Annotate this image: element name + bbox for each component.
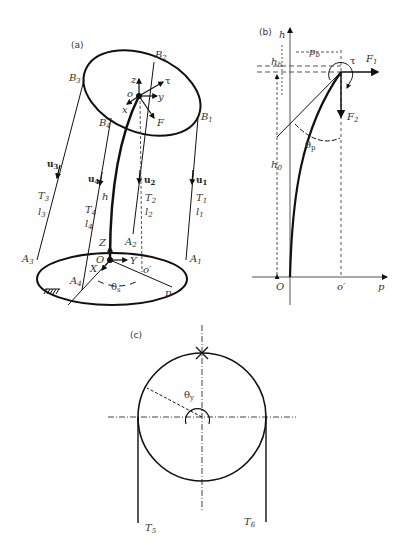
- o-label: o: [127, 88, 133, 99]
- l1-label: l1: [196, 206, 204, 219]
- h0-label: h0: [271, 159, 282, 172]
- A2-label: A2: [124, 236, 137, 249]
- u4-label: u4: [88, 174, 100, 186]
- O-axis-origin-label: O: [276, 281, 284, 292]
- tangent-line: [277, 72, 341, 137]
- p-line: [110, 260, 172, 287]
- h-label: h: [102, 191, 108, 202]
- theta-y-arc: [186, 409, 210, 424]
- o-prime-label: o′: [143, 264, 152, 275]
- panel-c-label: (c): [130, 330, 142, 340]
- A3-label: A3: [21, 253, 34, 266]
- cable-1: [186, 118, 198, 260]
- projection-line: [140, 96, 142, 272]
- l3-label: l3: [38, 206, 46, 219]
- b-tau-label: τ: [350, 55, 356, 66]
- F-label: F: [156, 117, 165, 128]
- cable-3: [37, 80, 84, 260]
- l2-label: l2: [145, 206, 153, 219]
- theta-p-arc: [295, 124, 340, 141]
- h-axis-label: h: [279, 29, 285, 40]
- B2-label: B2: [154, 49, 167, 62]
- T3-label: T3: [38, 190, 50, 203]
- p-label: p: [165, 287, 172, 298]
- panel-b: (b) h p O o′ pb hb h0 τ F1 F2: [252, 27, 387, 305]
- O-label: O: [96, 254, 104, 265]
- radius-dashed: [147, 388, 202, 417]
- T1-label: T1: [196, 192, 207, 205]
- B1-label: B1: [200, 111, 213, 124]
- panel-a: (a) z y x o τ F B1 B2 B3: [21, 34, 213, 305]
- T4-label: T4: [85, 204, 96, 217]
- panel-a-label: (a): [71, 40, 84, 50]
- theta-p-label: θp: [305, 139, 316, 152]
- l4-label: l4: [85, 218, 93, 231]
- panel-b-label: (b): [259, 27, 272, 37]
- force-arrow: [139, 96, 154, 118]
- backbone-curve: [290, 72, 341, 277]
- u3-label: u3: [47, 159, 59, 171]
- F1-label: F1: [365, 53, 377, 66]
- A4-label: A4: [69, 275, 82, 288]
- x-label: x: [122, 104, 128, 115]
- diagram-canvas: (a) z y x o τ F B1 B2 B3: [0, 0, 406, 557]
- u1-label: u1: [196, 175, 208, 187]
- theta-y-label: θy: [184, 389, 194, 402]
- T6-label: T6: [244, 516, 256, 529]
- Y-label: Y: [130, 255, 138, 266]
- T5-label: T5: [145, 522, 157, 535]
- tau-label: τ: [165, 75, 171, 86]
- p-axis-label: p: [378, 281, 385, 292]
- Z-label: Z: [98, 237, 107, 248]
- u2-label: u2: [144, 175, 156, 187]
- backbone: [110, 96, 139, 259]
- theta-s-label: θs: [111, 281, 121, 294]
- top-platform: [71, 34, 213, 152]
- panel-c: (c) θy T5 T6: [108, 325, 296, 535]
- o-prime-axis-label: o′: [337, 281, 346, 292]
- B3-label: B3: [68, 72, 81, 85]
- pb-label: pb: [309, 46, 320, 59]
- hb-label: hb: [271, 56, 282, 69]
- T2-label: T2: [145, 192, 157, 205]
- y-label: y: [157, 91, 164, 102]
- torque-arrowhead: [347, 82, 350, 88]
- F2-label: F2: [346, 111, 359, 124]
- A1-label: A1: [189, 253, 202, 266]
- z-label: z: [130, 74, 137, 85]
- cable-2: [133, 62, 154, 234]
